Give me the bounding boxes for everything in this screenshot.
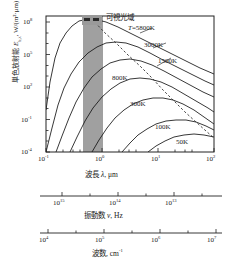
curve-label-300k: 300K	[130, 101, 146, 108]
chart-svg	[0, 0, 227, 271]
y-tick-exp-2: 2	[30, 82, 32, 87]
x-axis-title-frequency: 振動数 ν, Hz	[84, 212, 123, 220]
curve-label-100k: 100K	[155, 124, 171, 131]
x-tick-wavelength-0: 10-1	[38, 155, 49, 163]
x-tick-mantissa-f1: 10	[109, 199, 116, 207]
x-tick-exp-f1: 14	[116, 198, 121, 203]
x-axis-wavenumber-units-exp: -1	[119, 248, 123, 253]
x-tick-wavenumber-0: 104	[39, 236, 48, 244]
x-tick-wavelength-2: 101	[151, 155, 160, 163]
x-tick-mantissa-w2: 10	[151, 155, 158, 163]
x-tick-mantissa-w0: 10	[38, 155, 45, 163]
x-axis-wavenumber-name: 波数	[92, 249, 106, 258]
x-tick-frequency-1: 1014	[109, 199, 121, 207]
y-tick-mantissa-2: 10	[23, 83, 30, 91]
y-axis-symbol: E	[12, 42, 20, 46]
x-tick-exp-k1: 5	[102, 235, 104, 240]
x-tick-mantissa-f2: 10	[165, 199, 172, 207]
y-tick-label-2: 102	[23, 83, 32, 91]
x-axis-frequency-name: 振動数	[84, 211, 107, 220]
y-tick-mantissa-0: 10	[23, 18, 30, 26]
x-axis-title-wavenumber: 波数, cm-1	[92, 249, 123, 257]
x-tick-wavelength-1: 100	[95, 155, 104, 163]
y-tick-exp-3: -1	[28, 115, 32, 120]
curve-label-50k: 50K	[176, 139, 188, 146]
x-tick-exp-w3: 2	[213, 154, 215, 159]
x-tick-exp-k0: 4	[46, 235, 48, 240]
x-tick-exp-w1: 0	[102, 154, 104, 159]
x-axis-wavelength-name: 波長	[85, 170, 101, 179]
x-tick-frequency-0: 1015	[53, 199, 65, 207]
y-tick-exp-1: 5	[30, 50, 32, 55]
y-axis-subscript: b,λ	[17, 36, 22, 41]
frequency-axis	[40, 192, 222, 196]
y-axis-units: , W/(m²·μm)	[12, 1, 20, 37]
y-tick-mantissa-4: 10	[21, 148, 28, 156]
curve-label-800k: 800K	[112, 75, 128, 82]
x-tick-frequency-2: 1013	[165, 199, 177, 207]
y-tick-exp-0: 8	[30, 17, 32, 22]
x-tick-exp-k3: 7	[214, 235, 216, 240]
x-tick-mantissa-k0: 10	[39, 236, 46, 244]
x-tick-mantissa-w1: 10	[95, 155, 102, 163]
curve-label-5800k-value: =5800K	[132, 24, 155, 32]
y-tick-label-3: 10-1	[21, 116, 32, 124]
x-axis-wavelength-units: , μm	[104, 170, 118, 179]
x-tick-mantissa-f0: 10	[53, 199, 60, 207]
y-tick-exp-4: -4	[28, 147, 32, 152]
blackbody-radiation-chart: 単色放射能 Eb,λ, W/(m²·μm) 108 105 102 10-1 1…	[0, 0, 227, 271]
legend-swatch-visible-band	[82, 15, 102, 25]
y-axis-title-prefix: 単色放射能	[12, 46, 20, 83]
x-tick-exp-w0: -1	[45, 154, 49, 159]
y-tick-mantissa-3: 10	[21, 116, 28, 124]
x-axis-wavenumber-units: , cm	[106, 249, 119, 258]
x-tick-wavenumber-3: 107	[207, 236, 216, 244]
x-tick-wavenumber-2: 106	[151, 236, 160, 244]
x-tick-exp-f2: 13	[172, 198, 177, 203]
x-axis-title-wavelength: 波長 λ, μm	[85, 171, 118, 179]
visible-light-band	[83, 16, 103, 152]
y-tick-label-4: 10-4	[21, 148, 32, 156]
x-tick-mantissa-w3: 10	[206, 155, 213, 163]
curve-label-5800k: T=5800K	[128, 25, 155, 32]
x-tick-exp-w2: 1	[158, 154, 160, 159]
curve-label-1500k: 1500K	[158, 58, 177, 65]
y-axis-title: 単色放射能 Eb,λ, W/(m²·μm)	[10, 0, 21, 102]
x-axis-frequency-units: , Hz	[110, 211, 123, 220]
y-tick-label-1: 105	[23, 51, 32, 59]
curve-label-3000k: 3000K	[144, 42, 163, 49]
x-tick-mantissa-k1: 10	[95, 236, 102, 244]
wavenumber-axis	[40, 229, 222, 233]
x-tick-mantissa-k2: 10	[151, 236, 158, 244]
x-tick-wavelength-3: 102	[206, 155, 215, 163]
x-tick-exp-k2: 6	[158, 235, 160, 240]
y-tick-label-0: 108	[23, 18, 32, 26]
x-tick-exp-f0: 15	[60, 198, 65, 203]
x-tick-wavenumber-1: 105	[95, 236, 104, 244]
legend-label-visible-band: 可視光域	[106, 14, 134, 22]
x-tick-mantissa-k3: 10	[207, 236, 214, 244]
y-tick-mantissa-1: 10	[23, 51, 30, 59]
